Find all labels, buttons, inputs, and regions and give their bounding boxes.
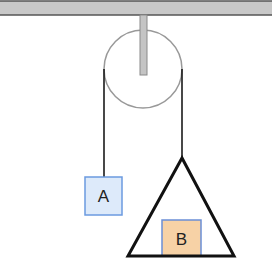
pulley-rod xyxy=(140,15,147,75)
block-a: A xyxy=(85,177,122,215)
ceiling xyxy=(0,1,272,15)
pan: B xyxy=(128,158,234,256)
block-b-label: B xyxy=(176,230,187,249)
pulley-diagram: A B xyxy=(0,0,272,270)
block-a-label: A xyxy=(98,187,110,206)
